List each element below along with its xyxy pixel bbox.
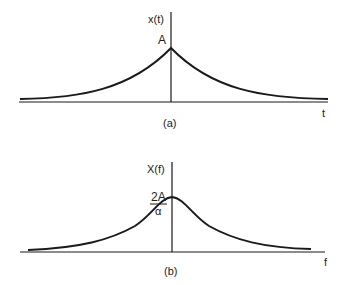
panel-a-exponential-curve — [20, 48, 328, 99]
panel-a-y-label: x(t) — [148, 14, 164, 25]
panel-b-y-label: X(f) — [147, 164, 165, 175]
panel-a-peak-label: A — [158, 34, 166, 46]
panel-b-peak-label-numerator: 2A — [151, 191, 166, 203]
panel-b-peak-label-denominator: α — [155, 206, 161, 217]
panel-b-lorentzian-curve — [28, 197, 311, 250]
panel-b-caption: (b) — [164, 266, 177, 277]
diagram-canvas — [0, 0, 346, 285]
panel-b-x-label: f — [324, 257, 327, 268]
panel-a-x-label: t — [322, 108, 325, 119]
figure: x(t) A t (a) X(f) 2A α f (b) — [0, 0, 346, 285]
panel-a-caption: (a) — [163, 118, 176, 129]
